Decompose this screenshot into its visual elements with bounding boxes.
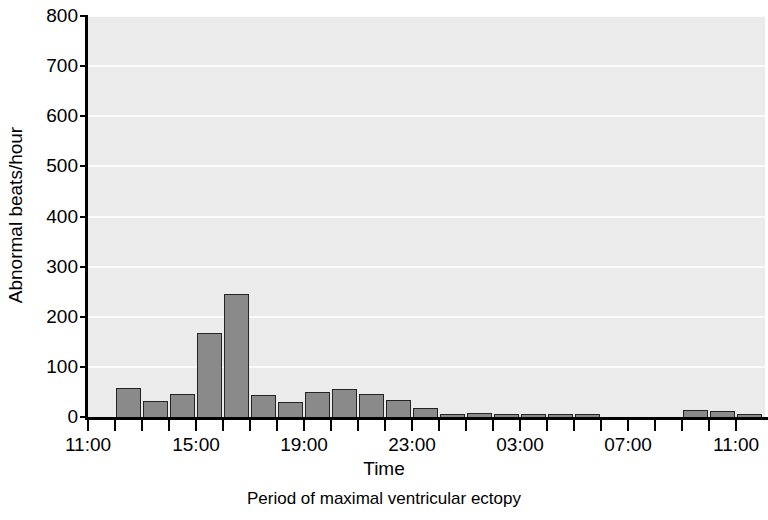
- gridline: [88, 165, 765, 167]
- y-axis-tick-label: 800: [46, 6, 78, 25]
- x-axis-tick-mark: [681, 420, 683, 431]
- x-axis-tick-mark: [87, 420, 89, 431]
- x-axis-line: [85, 417, 768, 420]
- x-axis-tick-mark: [357, 420, 359, 431]
- bar: [386, 400, 411, 417]
- x-axis-tick-mark: [249, 420, 251, 431]
- y-axis-title-text: Abnormal beats/hour: [5, 127, 27, 303]
- gridline: [88, 216, 765, 218]
- x-axis-tick-mark: [411, 420, 413, 431]
- x-axis-tick-mark: [654, 420, 656, 431]
- gridline: [88, 316, 765, 318]
- x-axis-tick-mark: [519, 420, 521, 431]
- x-axis-tick-mark: [222, 420, 224, 431]
- x-axis-tick-label: 23:00: [372, 434, 452, 456]
- x-axis-tick-label: 11:00: [696, 434, 768, 456]
- y-axis-tick-label: 200: [46, 307, 78, 326]
- y-axis-tick-mark: [80, 266, 88, 268]
- y-axis-tick-labels: 0100200300400500600700800: [26, 0, 78, 430]
- x-axis-tick-mark: [384, 420, 386, 431]
- y-axis-tick-mark: [80, 15, 88, 17]
- y-axis-tick-mark: [80, 316, 88, 318]
- x-axis-tick-label: 15:00: [156, 434, 236, 456]
- x-axis-tick-mark: [438, 420, 440, 431]
- y-axis-tick-label: 400: [46, 207, 78, 226]
- y-axis-tick-label: 600: [46, 106, 78, 125]
- y-axis-tick-mark: [80, 216, 88, 218]
- gridline: [88, 65, 765, 67]
- x-axis-tick-mark: [600, 420, 602, 431]
- y-axis-tick-mark: [80, 65, 88, 67]
- x-axis-tick-mark: [114, 420, 116, 431]
- bar: [197, 333, 222, 417]
- x-axis-tick-label: 19:00: [264, 434, 344, 456]
- figure-caption: Period of maximal ventricular ectopy: [0, 489, 768, 509]
- y-axis-tick-mark: [80, 416, 88, 418]
- gridline: [88, 16, 765, 17]
- bar: [224, 294, 249, 417]
- x-axis-tick-mark: [195, 420, 197, 431]
- x-axis-tick-mark: [465, 420, 467, 431]
- x-axis-tick-mark: [546, 420, 548, 431]
- x-axis-title: Time: [0, 458, 768, 480]
- x-axis-tick-label: 07:00: [588, 434, 668, 456]
- plot-area: [88, 16, 765, 417]
- y-axis-tick-label: 0: [67, 407, 78, 426]
- gridline: [88, 115, 765, 117]
- y-axis-tick-label: 700: [46, 56, 78, 75]
- gridline: [88, 266, 765, 268]
- y-axis-tick-label: 100: [46, 357, 78, 376]
- y-axis-tick-label: 500: [46, 156, 78, 175]
- bar: [332, 389, 357, 417]
- bar: [359, 394, 384, 417]
- y-axis-tick-mark: [80, 165, 88, 167]
- bar: [251, 395, 276, 417]
- y-axis-tick-mark: [80, 366, 88, 368]
- x-axis-tick-mark: [708, 420, 710, 431]
- bar: [116, 388, 141, 417]
- y-axis-tick-label: 300: [46, 257, 78, 276]
- bar: [413, 408, 438, 417]
- x-axis-tick-mark: [573, 420, 575, 431]
- gridline: [88, 366, 765, 368]
- x-axis-tick-mark: [330, 420, 332, 431]
- x-axis-tick-mark: [303, 420, 305, 431]
- x-axis-tick-label: 11:00: [48, 434, 128, 456]
- y-axis-tick-mark: [80, 115, 88, 117]
- bar: [278, 402, 303, 417]
- x-axis-tick-mark: [492, 420, 494, 431]
- x-axis-tick-mark: [141, 420, 143, 431]
- x-axis-tick-mark: [627, 420, 629, 431]
- x-axis-tick-label: 03:00: [480, 434, 560, 456]
- bar: [143, 401, 168, 417]
- x-axis-tick-mark: [276, 420, 278, 431]
- bar: [170, 394, 195, 417]
- bar: [305, 392, 330, 417]
- x-axis-tick-mark: [735, 420, 737, 431]
- bar: [683, 410, 708, 417]
- chart-figure: Abnormal beats/hour 01002003004005006007…: [0, 0, 768, 520]
- x-axis-tick-mark: [168, 420, 170, 431]
